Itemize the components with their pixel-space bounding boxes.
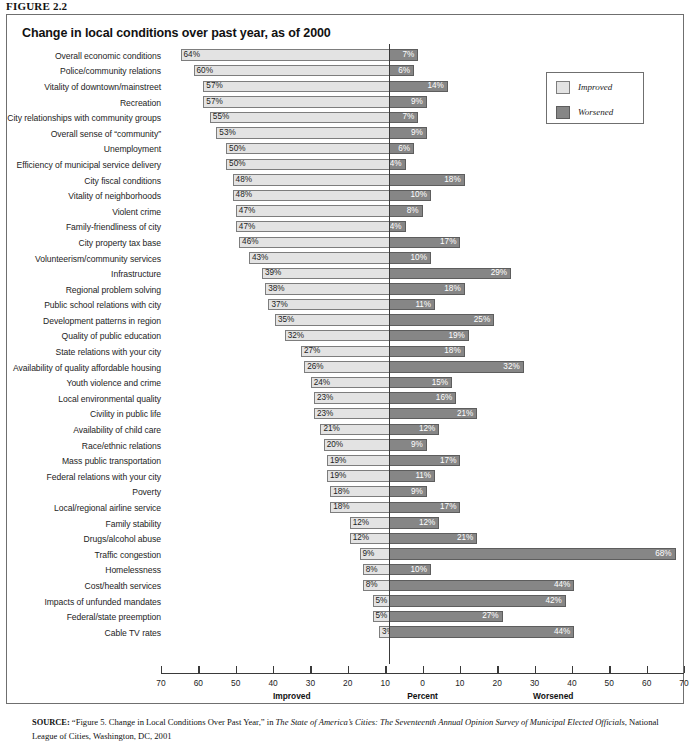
bar-value-worsened: 18% xyxy=(444,176,460,184)
bar-area: 64%7% xyxy=(161,48,684,64)
bar-worsened: 17% xyxy=(389,237,461,248)
axis-tick-label: 70 xyxy=(679,678,688,688)
bar-value-improved: 37% xyxy=(271,300,287,308)
axis-tick xyxy=(198,666,199,673)
bar-value-improved: 60% xyxy=(197,67,213,75)
axis-tick xyxy=(310,666,311,673)
bar-value-improved: 19% xyxy=(330,456,346,464)
bar-area: 47%8% xyxy=(161,204,684,220)
bar-improved: 48% xyxy=(233,190,389,201)
bar-improved: 60% xyxy=(194,65,389,76)
bar-value-worsened: 11% xyxy=(415,300,431,308)
category-label: Cost/health services xyxy=(85,581,161,591)
bar-value-worsened: 11% xyxy=(415,472,431,480)
bar-value-improved: 50% xyxy=(229,160,245,168)
bar-area: 23%21% xyxy=(161,407,684,423)
bar-worsened: 29% xyxy=(389,268,511,279)
bar-value-worsened: 32% xyxy=(503,363,519,371)
bar-area: 37%11% xyxy=(161,298,684,314)
chart-row: Traffic congestion9%68% xyxy=(6,547,684,563)
figure-number: FIGURE 2.2 xyxy=(6,0,67,12)
bar-improved: 39% xyxy=(262,268,389,279)
bar-improved: 50% xyxy=(226,159,389,170)
bar-value-improved: 32% xyxy=(288,332,304,340)
bar-improved: 12% xyxy=(350,517,389,528)
chart-row: Availability of quality affordable housi… xyxy=(6,360,684,376)
axis-caption-percent: Percent xyxy=(407,691,438,701)
axis-caption-worsened: Worsened xyxy=(533,691,573,701)
bar-worsened: 21% xyxy=(389,533,478,544)
bar-area: 19%17% xyxy=(161,453,684,469)
chart-row: Regional problem solving38%18% xyxy=(6,282,684,298)
legend-item-improved: Improved xyxy=(556,76,643,98)
bar-area: 39%29% xyxy=(161,266,684,282)
bar-value-worsened: 9% xyxy=(411,129,423,137)
bar-value-improved: 43% xyxy=(252,254,268,262)
bar-value-worsened: 18% xyxy=(444,285,460,293)
chart-row: Quality of public education32%19% xyxy=(6,329,684,345)
axis-tick xyxy=(647,666,648,673)
category-label: Traffic congestion xyxy=(95,550,161,560)
chart-row: Efficiency of municipal service delivery… xyxy=(6,157,684,173)
bar-worsened: 42% xyxy=(389,595,566,606)
bar-area: 53%9% xyxy=(161,126,684,142)
category-label: Public school relations with city xyxy=(44,300,161,310)
category-label: Civility in public life xyxy=(90,409,161,419)
bar-worsened: 7% xyxy=(389,49,419,60)
category-label: Availability of quality affordable housi… xyxy=(13,363,161,373)
bar-area: 12%12% xyxy=(161,516,684,532)
chart-row: Mass public transportation19%17% xyxy=(6,453,684,469)
bar-value-worsened: 27% xyxy=(482,612,498,620)
bar-worsened: 25% xyxy=(389,314,494,325)
axis-tick-label: 50 xyxy=(605,678,614,688)
bar-worsened: 14% xyxy=(389,81,448,92)
category-label: Police/community relations xyxy=(60,66,161,76)
bar-area: 27%18% xyxy=(161,344,684,360)
chart-row: Volunteerism/community services43%10% xyxy=(6,251,684,267)
chart-row: Development patterns in region35%25% xyxy=(6,313,684,329)
category-label: Local/regional airline service xyxy=(54,503,161,513)
bar-improved: 35% xyxy=(275,314,389,325)
bar-area: 46%17% xyxy=(161,235,684,251)
bar-area: 50%4% xyxy=(161,157,684,173)
chart-row: Civility in public life23%21% xyxy=(6,407,684,423)
bar-value-improved: 38% xyxy=(268,285,284,293)
chart-legend: Improved Worsened xyxy=(546,72,644,124)
plot-area: Overall economic conditions64%7%Police/c… xyxy=(6,48,684,660)
bar-value-improved: 48% xyxy=(236,191,252,199)
bar-area: 50%6% xyxy=(161,142,684,158)
x-axis: 70605040302010010203040506070ImprovedPer… xyxy=(161,673,684,674)
bar-value-worsened: 10% xyxy=(411,254,427,262)
category-label: Family stability xyxy=(105,519,161,529)
source-title-italic: The State of America’s Cities: The Seven… xyxy=(276,717,625,727)
bar-value-improved: 55% xyxy=(213,113,229,121)
bar-area: 48%10% xyxy=(161,188,684,204)
category-label: Recreation xyxy=(120,98,161,108)
bar-value-worsened: 9% xyxy=(411,441,423,449)
bar-value-improved: 24% xyxy=(314,378,330,386)
bar-area: 18%17% xyxy=(161,500,684,516)
bar-area: 5%42% xyxy=(161,594,684,610)
axis-tick-label: 0 xyxy=(420,678,425,688)
axis-tick-label: 20 xyxy=(343,678,352,688)
axis-tick-label: 30 xyxy=(306,678,315,688)
bar-improved: 8% xyxy=(363,564,389,575)
axis-tick-label: 30 xyxy=(530,678,539,688)
bar-value-improved: 21% xyxy=(323,425,339,433)
bar-worsened: 7% xyxy=(389,112,419,123)
bar-area: 8%44% xyxy=(161,578,684,594)
bar-area: 5%27% xyxy=(161,609,684,625)
bar-area: 8%10% xyxy=(161,563,684,579)
figure-page: FIGURE 2.2 Change in local conditions ov… xyxy=(0,0,692,756)
bar-improved: 43% xyxy=(249,252,389,263)
bar-value-worsened: 4% xyxy=(390,223,402,231)
category-label: Unemployment xyxy=(104,144,161,154)
chart-row: Violent crime47%8% xyxy=(6,204,684,220)
bar-area: 12%21% xyxy=(161,531,684,547)
axis-tick xyxy=(609,666,610,673)
category-label: City fiscal conditions xyxy=(84,176,161,186)
category-label: Development patterns in region xyxy=(43,316,161,326)
axis-tick xyxy=(497,666,498,673)
bar-value-worsened: 15% xyxy=(432,378,448,386)
bar-improved: 20% xyxy=(324,439,389,450)
